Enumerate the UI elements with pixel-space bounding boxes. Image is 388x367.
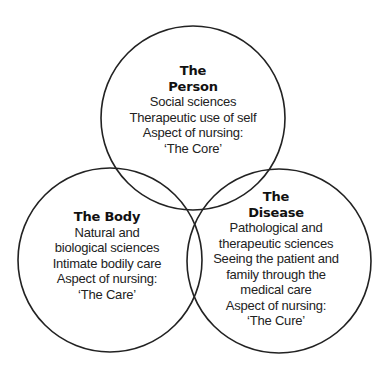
disease-title-line-2: Disease (213, 205, 339, 221)
disease-line-2: therapeutic sciences (213, 236, 339, 252)
person-text-block: The Person Social sciences Therapeutic u… (130, 63, 257, 156)
disease-line-5: medical care (213, 282, 339, 298)
disease-line-3: Seeing the patient and (213, 251, 339, 267)
person-title-line-2: Person (130, 79, 257, 95)
body-line-4: Aspect of nursing: (53, 271, 162, 287)
person-line-4: ‘The Core’ (130, 141, 257, 157)
disease-text-block: The Disease Pathological and therapeutic… (213, 189, 339, 329)
body-line-3: Intimate bodily care (53, 256, 162, 272)
disease-line-7: ‘The Cure’ (213, 313, 339, 329)
disease-line-1: Pathological and (213, 220, 339, 236)
disease-line-6: Aspect of nursing: (213, 298, 339, 314)
person-title-line-1: The (130, 63, 257, 79)
body-line-1: Natural and (53, 225, 162, 241)
body-text-block: The Body Natural and biological sciences… (53, 209, 162, 302)
disease-line-4: family through the (213, 267, 339, 283)
person-line-2: Therapeutic use of self (130, 110, 257, 126)
body-title-line-1: The Body (53, 209, 162, 225)
body-line-2: biological sciences (53, 240, 162, 256)
person-line-3: Aspect of nursing: (130, 125, 257, 141)
person-line-1: Social sciences (130, 94, 257, 110)
body-line-5: ‘The Care’ (53, 287, 162, 303)
disease-title-line-1: The (213, 189, 339, 205)
